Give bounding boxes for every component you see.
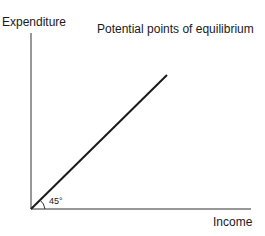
angle-arc (40, 200, 45, 209)
line-label: Potential points of equilibrium (97, 22, 254, 36)
equilibrium-line (31, 75, 167, 209)
y-axis-label: Expenditure (2, 15, 66, 29)
angle-label: 45° (49, 194, 63, 208)
x-axis-label: Income (213, 215, 252, 229)
